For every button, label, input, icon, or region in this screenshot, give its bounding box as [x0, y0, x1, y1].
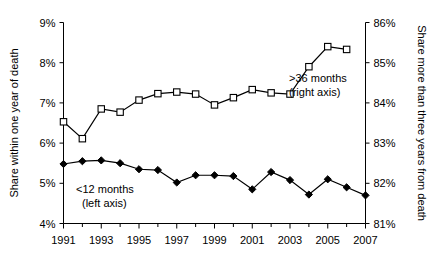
data-point-square — [60, 119, 66, 125]
left-axis-tick-label: 8% — [40, 57, 56, 69]
x-axis-tick-label: 1999 — [202, 234, 226, 246]
data-point-square — [98, 106, 104, 112]
data-point-square — [230, 94, 236, 100]
left-axis-tick-label: 6% — [40, 137, 56, 149]
right-axis-tick-label: 81% — [374, 218, 396, 230]
x-axis-tick-label: 1993 — [89, 234, 113, 246]
plot-background — [0, 0, 435, 272]
annotation-lt12-months-line1: <12 months — [76, 183, 134, 195]
data-point-square — [325, 43, 331, 49]
dual-axis-line-chart: 9%8%7%6%5%4% 86%85%84%83%82%81% 19911993… — [0, 0, 435, 272]
data-point-square — [117, 109, 123, 115]
right-axis-tick-label: 83% — [374, 137, 396, 149]
left-axis-tick-label: 4% — [40, 218, 56, 230]
left-axis-tick-label: 7% — [40, 97, 56, 109]
annotation-gt36-months-line2: (right axis) — [289, 86, 340, 98]
x-axis-tick-label: 1995 — [127, 234, 151, 246]
data-point-square — [155, 90, 161, 96]
right-axis-tick-label: 84% — [374, 97, 396, 109]
data-point-square — [249, 86, 255, 92]
x-axis-tick-label: 2005 — [316, 234, 340, 246]
x-axis-tick-label: 2003 — [278, 234, 302, 246]
x-axis-tick-label: 1991 — [51, 234, 75, 246]
left-axis-title: Share within one year of death — [8, 48, 20, 197]
data-point-square — [136, 97, 142, 103]
right-axis-tick-label: 86% — [374, 17, 396, 29]
data-point-square — [306, 64, 312, 70]
x-axis-tick-label: 2001 — [240, 234, 264, 246]
data-point-square — [79, 135, 85, 141]
annotation-lt12-months-line2: (left axis) — [82, 197, 127, 209]
right-axis-tick-label: 82% — [374, 177, 396, 189]
left-axis-tick-label: 5% — [40, 177, 56, 189]
data-point-square — [174, 89, 180, 95]
x-axis-tick-label: 2007 — [353, 234, 377, 246]
data-point-square — [211, 102, 217, 108]
left-axis-tick-label: 9% — [40, 17, 56, 29]
chart-container: 9%8%7%6%5%4% 86%85%84%83%82%81% 19911993… — [0, 0, 435, 272]
data-point-square — [343, 46, 349, 52]
data-point-square — [268, 90, 274, 96]
x-axis-tick-label: 1997 — [165, 234, 189, 246]
right-axis-tick-label: 85% — [374, 57, 396, 69]
annotation-gt36-months-line1: >36 months — [289, 72, 347, 84]
data-point-square — [192, 91, 198, 97]
right-axis-title: Share more than three years from death — [416, 25, 428, 221]
